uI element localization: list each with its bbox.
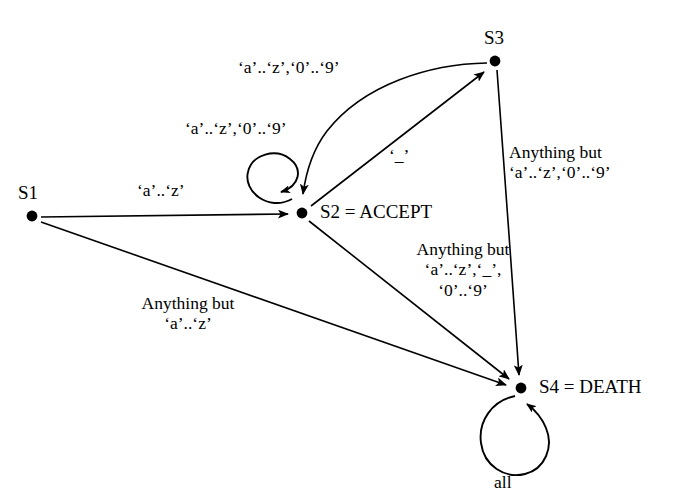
edge-s3-to-s2 [303, 63, 487, 194]
edge-s2-to-s3 [311, 72, 484, 206]
edge-label-s1-to-s2: ‘a’..‘z’ [137, 180, 185, 200]
edge-label-s1-to-s4-line2: ‘a’..‘z’ [108, 313, 268, 333]
node-label-s4: S4 = DEATH [539, 376, 642, 398]
edge-label-s2-to-s4-line3: ‘0’..‘9’ [378, 280, 548, 300]
edge-s4-self-loop [481, 396, 549, 475]
edge-label-s2-to-s4-line1: Anything but [378, 239, 548, 259]
node-label-s1: S1 [18, 182, 38, 204]
edge-label-s2-self-loop: ‘a’..‘z’,‘0’..‘9’ [185, 118, 287, 138]
node-s2[interactable] [297, 208, 308, 219]
edge-label-s2-to-s3: ‘_’ [389, 145, 409, 165]
node-label-s3: S3 [484, 27, 504, 49]
edge-label-s1-to-s4: Anything but ‘a’..‘z’ [108, 293, 268, 334]
edge-label-s2-to-s4-line2: ‘a’..‘z’,‘_’, [378, 259, 548, 279]
edge-label-s1-to-s4-line1: Anything but [108, 293, 268, 313]
edge-label-s3-to-s2: ‘a’..‘z’,‘0’..‘9’ [238, 57, 340, 77]
edge-s2-self-loop [247, 153, 298, 203]
edge-label-s2-to-s4: Anything but ‘a’..‘z’,‘_’, ‘0’..‘9’ [378, 239, 548, 300]
edge-s3-to-s4 [497, 70, 519, 375]
edge-s1-to-s2 [41, 214, 288, 217]
edge-label-s4-self-loop: all [494, 472, 512, 492]
node-label-s2: S2 = ACCEPT [320, 201, 432, 223]
edge-label-s3-to-s4-line1: Anything but [509, 142, 679, 162]
state-machine-diagram: S1 S2 = ACCEPT S3 S4 = DEATH ‘a’..‘z’ An… [0, 0, 683, 499]
node-s1[interactable] [27, 211, 38, 222]
diagram-canvas [0, 0, 683, 499]
edge-label-s3-to-s4: Anything but ‘a’..‘z’,‘0’..‘9’ [509, 142, 679, 183]
edge-label-s3-to-s4-line2: ‘a’..‘z’,‘0’..‘9’ [509, 162, 679, 182]
node-s4[interactable] [516, 383, 527, 394]
node-s3[interactable] [490, 56, 501, 67]
